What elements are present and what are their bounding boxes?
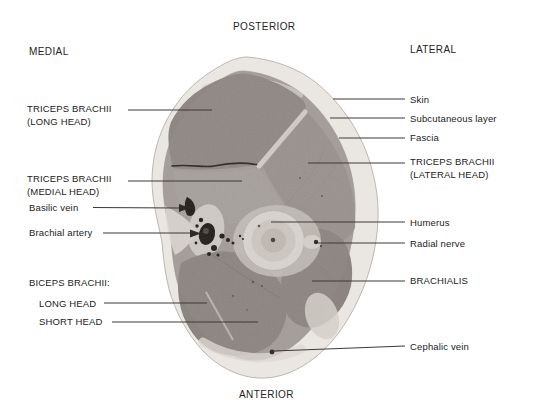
label-fascia: Fascia — [410, 131, 439, 144]
label-biceps-short-head: SHORT HEAD — [39, 315, 102, 328]
anatomy-figure: POSTERIOR ANTERIOR MEDIAL LATERAL TRICEP… — [0, 0, 536, 410]
orientation-medial: MEDIAL — [29, 46, 69, 57]
label-triceps-long-head: TRICEPS BRACHII (LONG HEAD) — [27, 102, 112, 128]
label-basilic-vein: Basilic vein — [29, 201, 78, 214]
label-brachialis: BRACHIALIS — [410, 274, 468, 287]
orientation-anterior: ANTERIOR — [239, 389, 294, 400]
label-triceps-lateral-head: TRICEPS BRACHII (LATERAL HEAD) — [410, 156, 495, 181]
label-humerus: Humerus — [410, 216, 450, 229]
label-skin: Skin — [410, 93, 429, 106]
label-brachial-artery: Brachial artery — [29, 226, 93, 239]
label-cephalic-vein: Cephalic vein — [410, 340, 469, 353]
label-biceps-long-head: LONG HEAD — [39, 297, 96, 310]
label-triceps-medial-head: TRICEPS BRACHII (MEDIAL HEAD) — [27, 172, 112, 198]
orientation-posterior: POSTERIOR — [233, 21, 296, 32]
orientation-lateral: LATERAL — [410, 44, 457, 55]
label-biceps-brachii: BICEPS BRACHII: — [29, 276, 110, 289]
label-subcutaneous-layer: Subcutaneous layer — [410, 112, 497, 125]
leader-basilic-vein — [93, 208, 180, 209]
label-radial-nerve: Radial nerve — [410, 237, 465, 250]
